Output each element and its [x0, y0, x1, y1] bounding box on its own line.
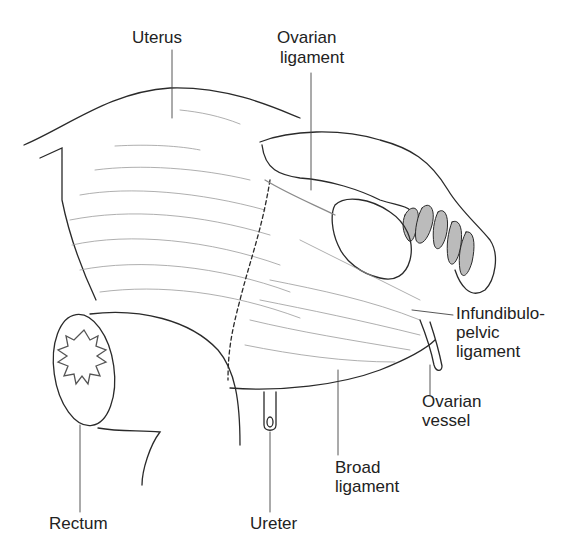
label-ovarian-vessel-line1: Ovarian	[422, 392, 482, 412]
pelvic-anatomy-drawing	[0, 0, 585, 552]
rectum-cut-end	[46, 310, 121, 429]
broad-ligament-fibers	[245, 240, 420, 362]
uterus-right-edge	[228, 180, 270, 380]
label-broad-ligament-line2: ligament	[335, 477, 399, 497]
ureter-drawing	[264, 392, 276, 430]
label-ovarian-ligament-line1: Ovarian	[277, 28, 337, 48]
label-infundibulopelvic-line3: ligament	[456, 342, 520, 362]
label-ovarian-vessel-line2: vessel	[422, 411, 470, 431]
broad-ligament-edge	[230, 340, 435, 389]
uterus-left-edge	[40, 148, 96, 300]
ureter-lumen	[267, 417, 273, 427]
ovarian-ligament-band	[265, 180, 335, 215]
rectum-lumen	[58, 330, 106, 384]
label-ureter: Ureter	[250, 514, 297, 534]
leader-lines	[80, 50, 453, 512]
ovary	[332, 199, 411, 279]
fallopian-tube-inner	[262, 145, 410, 210]
uterus-outline	[24, 88, 300, 145]
rectum-underside	[98, 428, 160, 485]
label-infundibulopelvic-line2: pelvic	[456, 323, 499, 343]
anatomy-diagram: Uterus Ovarian ligament Infundibulo- pel…	[0, 0, 585, 552]
uterus-fibers	[70, 110, 300, 318]
label-infundibulopelvic-line1: Infundibulo-	[456, 304, 545, 324]
label-ovarian-ligament-line2: ligament	[280, 48, 344, 68]
ovarian-vessel-drawing	[420, 320, 442, 370]
rectum-body	[90, 313, 240, 446]
label-rectum: Rectum	[49, 514, 108, 534]
label-uterus: Uterus	[132, 28, 182, 48]
fimbriae	[403, 205, 474, 275]
label-broad-ligament-line1: Broad	[335, 458, 380, 478]
